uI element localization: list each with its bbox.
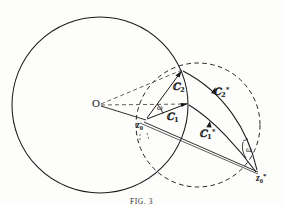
dashed-line-o-to-mid [101, 104, 188, 105]
label-S2-subscript: 2 [180, 86, 185, 94]
label-S1-base: ℂ [166, 111, 174, 122]
label-S2-base: ℂ [172, 81, 180, 92]
label-z0-subscript: 0 [140, 124, 143, 131]
label-z0: z0 [136, 121, 143, 131]
label-S1-subscript: 1 [174, 116, 179, 124]
figure-caption: FIG. 3 [0, 197, 283, 206]
label-S1-star: ℂ1* [199, 128, 215, 141]
vector-S1-arrowhead [181, 103, 189, 107]
label-z0-star-superscript: * [263, 172, 266, 179]
label-S2-star: ℂ2* [213, 86, 229, 99]
label-S1-star-superscript: * [212, 127, 216, 136]
label-z0-star: z0* [256, 173, 266, 184]
label-S2-star-base: ℂ [213, 86, 221, 97]
label-origin: O [92, 98, 100, 109]
vector-S2-arrowhead [175, 71, 181, 78]
label-S2-star-superscript: * [226, 85, 230, 94]
label-S1-star-base: ℂ [199, 128, 207, 139]
figure-drawing [0, 0, 283, 206]
line-o-to-z0 [101, 106, 146, 120]
figure-container: O z0 z0* ℂ1 ℂ2 ℂ1* ℂ2* ω ω FIG. 3 [0, 0, 283, 206]
label-S1: ℂ1 [166, 112, 179, 124]
label-omega-inner: ω [157, 104, 163, 112]
tick-below-z0-b [147, 133, 149, 140]
label-S2: ℂ2 [172, 82, 185, 94]
label-omega-outer: ω [246, 146, 252, 154]
